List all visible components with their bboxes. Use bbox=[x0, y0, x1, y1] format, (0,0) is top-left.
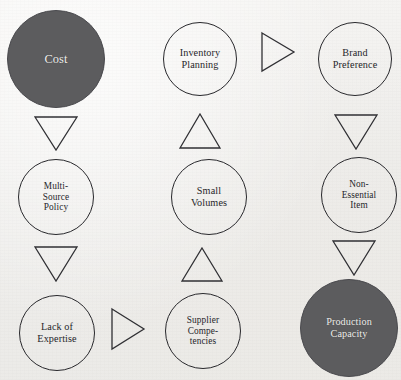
connector-lack-of-expertise-to-supplier-competencies bbox=[110, 307, 146, 351]
connector-non-essential-item-to-production-capacity bbox=[331, 239, 377, 277]
node-multi-source-policy[interactable]: Multi- Source Policy bbox=[18, 159, 94, 235]
node-non-essential-item[interactable]: Non- Essential Item bbox=[321, 157, 397, 233]
influence-diagram: Cost Inventory Planning Brand Preference… bbox=[0, 0, 401, 380]
node-supplier-competencies-label: Supplier Compe- tencies bbox=[187, 315, 219, 347]
node-non-essential-item-label: Non- Essential Item bbox=[342, 179, 376, 211]
node-production-capacity[interactable]: Production Capacity bbox=[300, 279, 398, 377]
node-supplier-competencies[interactable]: Supplier Compe- tencies bbox=[165, 293, 241, 369]
connector-brand-preference-to-non-essential-item bbox=[333, 113, 379, 151]
node-inventory-planning[interactable]: Inventory Planning bbox=[163, 22, 237, 96]
node-cost[interactable]: Cost bbox=[7, 10, 105, 108]
node-small-volumes[interactable]: Small Volumes bbox=[171, 159, 247, 235]
node-inventory-planning-label: Inventory Planning bbox=[180, 47, 221, 70]
node-brand-preference[interactable]: Brand Preference bbox=[318, 22, 392, 96]
connector-inventory-planning-to-brand-preference bbox=[260, 31, 296, 73]
node-lack-of-expertise-label: Lack of Expertise bbox=[37, 321, 76, 344]
connector-supplier-competencies-to-small-volumes bbox=[180, 246, 224, 283]
node-small-volumes-label: Small Volumes bbox=[191, 185, 227, 208]
node-brand-preference-label: Brand Preference bbox=[333, 47, 378, 70]
node-lack-of-expertise[interactable]: Lack of Expertise bbox=[19, 295, 95, 371]
connector-multi-source-policy-to-lack-of-expertise bbox=[33, 245, 79, 283]
connector-small-volumes-to-inventory-planning bbox=[178, 112, 222, 150]
node-production-capacity-label: Production Capacity bbox=[326, 316, 372, 339]
node-multi-source-policy-label: Multi- Source Policy bbox=[43, 181, 69, 213]
connector-cost-to-multi-source-policy bbox=[33, 115, 79, 152]
node-cost-label: Cost bbox=[44, 52, 67, 66]
